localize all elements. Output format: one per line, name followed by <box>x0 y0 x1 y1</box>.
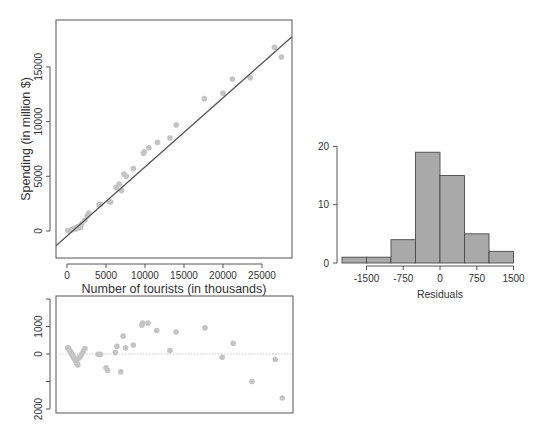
x-tick-label: 1500 <box>502 273 525 284</box>
histogram-bar <box>465 234 490 263</box>
residual-point <box>140 320 146 326</box>
data-point <box>173 122 179 128</box>
histogram-bar <box>391 240 416 263</box>
residual-point <box>249 379 255 385</box>
residual-point <box>131 342 137 348</box>
scatter-x-axis: 0500010000150002000025000 <box>64 264 276 281</box>
data-point <box>155 140 161 146</box>
residual-point <box>123 345 129 351</box>
data-point <box>220 90 226 96</box>
x-tick-label: -1500 <box>354 273 380 284</box>
y-tick-label: 20 <box>318 141 330 152</box>
x-tick-label: 15000 <box>170 270 198 281</box>
histogram-bar <box>416 152 441 263</box>
residual-point <box>105 368 111 374</box>
residual-plot-frame <box>56 296 293 413</box>
y-tick-label: 15000 <box>33 53 44 81</box>
data-point <box>116 181 122 187</box>
residual-point <box>173 329 179 335</box>
x-tick-label: 0 <box>437 273 443 284</box>
scatter-x-label: Number of tourists (in thousands) <box>82 282 267 296</box>
scatter-y-axis: 050001000015000 <box>33 53 50 234</box>
data-point <box>141 149 147 155</box>
y-tick-label: 0 <box>33 228 44 234</box>
y-tick-label: 10000 <box>33 107 44 135</box>
x-tick-label: 5000 <box>95 270 118 281</box>
y-tick-label: 0 <box>33 351 44 357</box>
residual-point <box>120 333 126 339</box>
residual-histogram: -1500-75007501500 01020 Residuals <box>318 141 525 300</box>
data-point <box>201 96 207 102</box>
y-tick-label: 2000 <box>33 397 44 420</box>
data-point <box>167 135 173 141</box>
histogram-y-axis: 01020 <box>318 141 337 269</box>
data-point <box>230 76 236 82</box>
histogram-bar <box>342 257 367 263</box>
x-tick-label: 25000 <box>248 270 276 281</box>
residual-points <box>65 320 285 401</box>
residual-point <box>145 320 151 326</box>
residual-point <box>82 346 88 352</box>
scatter-plot-frame <box>56 20 292 258</box>
data-point <box>146 145 152 151</box>
figure: 0500010000150002000025000 05000100001500… <box>0 0 543 446</box>
residual-point <box>118 369 124 375</box>
histogram-x-label: Residuals <box>417 288 463 300</box>
y-tick-label: 10 <box>318 199 330 210</box>
y-tick-label: 5000 <box>33 165 44 188</box>
residual-y-axis: 100002000 <box>33 299 50 420</box>
histogram-x-axis: -1500-75007501500 <box>354 266 525 284</box>
residual-point <box>75 362 81 368</box>
x-tick-label: 0 <box>64 270 70 281</box>
y-tick-label: 1000 <box>33 315 44 338</box>
residual-point <box>219 355 225 361</box>
histogram-bar <box>367 257 392 263</box>
histogram-bar <box>440 176 465 263</box>
x-tick-label: 10000 <box>131 270 159 281</box>
scatter-plot: 0500010000150002000025000 05000100001500… <box>19 20 292 296</box>
residual-point <box>167 348 173 354</box>
x-tick-label: 750 <box>468 273 485 284</box>
residual-plot: 100002000 <box>33 296 293 420</box>
regression-line <box>56 37 292 246</box>
data-point <box>272 44 278 50</box>
residual-point <box>154 328 160 334</box>
x-tick-label: 20000 <box>209 270 237 281</box>
scatter-y-label: Spending (in million $) <box>19 77 33 201</box>
data-point <box>123 174 129 180</box>
residual-point <box>230 340 236 346</box>
residual-point <box>202 325 208 331</box>
data-point <box>279 54 285 60</box>
histogram-bar <box>489 251 514 263</box>
x-tick-label: -750 <box>393 273 413 284</box>
residual-point <box>279 395 285 401</box>
residual-point <box>113 350 119 356</box>
y-tick-label: 0 <box>323 258 329 269</box>
data-point <box>108 199 114 205</box>
data-point <box>131 166 137 172</box>
residual-point <box>114 344 120 350</box>
histogram-bars <box>342 152 514 263</box>
residual-point <box>98 351 104 357</box>
residual-point <box>272 357 278 363</box>
